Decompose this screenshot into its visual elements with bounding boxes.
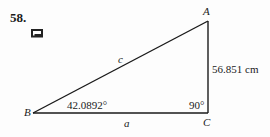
angle-c-measure: 90° bbox=[189, 99, 204, 111]
side-a-label: a bbox=[124, 117, 130, 129]
vertex-a-label: A bbox=[203, 5, 210, 17]
side-b-length: 56.851 cm bbox=[212, 63, 258, 75]
vertex-c-label: C bbox=[203, 116, 210, 128]
vertex-b-label: B bbox=[24, 106, 31, 118]
side-c-label: c bbox=[118, 53, 123, 65]
side-c-line bbox=[33, 21, 208, 113]
angle-b-measure: 42.0892° bbox=[67, 99, 107, 111]
